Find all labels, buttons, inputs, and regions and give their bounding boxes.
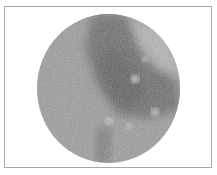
micrograph-image (37, 14, 180, 163)
microscope-field (37, 14, 180, 163)
